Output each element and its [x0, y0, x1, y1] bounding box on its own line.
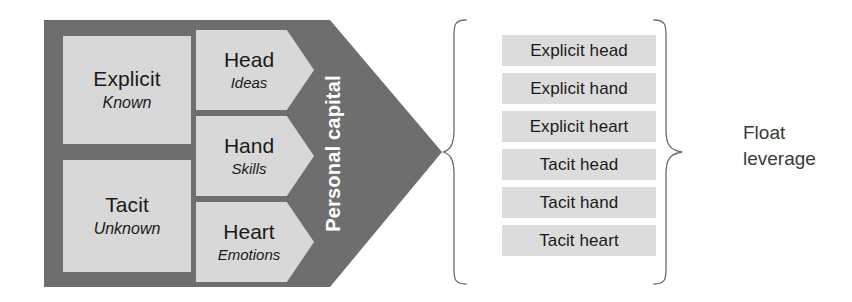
list-item: Explicit head	[502, 35, 656, 66]
personal-capital-arrow-block: Explicit Known Tacit Unknown Head Ideas …	[0, 0, 460, 302]
capability-chevron-title: Hand	[224, 135, 274, 157]
list-item: Tacit head	[502, 149, 656, 180]
capability-chevron-subtitle: Skills	[231, 161, 266, 177]
list-item: Explicit heart	[502, 111, 656, 142]
knowledge-box-explicit: Explicit Known	[63, 36, 191, 144]
list-item: Explicit hand	[502, 73, 656, 104]
float-leverage-line-1: Float	[743, 120, 843, 146]
capability-chevron-subtitle: Ideas	[231, 75, 268, 91]
diagram-canvas: Explicit Known Tacit Unknown Head Ideas …	[0, 0, 852, 302]
float-leverage-line-2: leverage	[743, 146, 843, 172]
knowledge-box-tacit: Tacit Unknown	[63, 160, 191, 272]
list-item: Tacit hand	[502, 187, 656, 218]
left-curly-brace-icon	[438, 0, 468, 302]
capability-chevron-title: Heart	[223, 221, 274, 243]
capability-chevron-title: Head	[224, 49, 274, 71]
knowledge-box-subtitle: Unknown	[94, 221, 161, 238]
capability-chevron-subtitle: Emotions	[218, 247, 281, 263]
right-curly-brace-icon	[652, 0, 692, 302]
list-item: Tacit heart	[502, 225, 656, 256]
float-leverage-label: Float leverage	[743, 120, 843, 172]
knowledge-box-title: Explicit	[93, 68, 160, 90]
combination-list: Explicit head Explicit hand Explicit hea…	[502, 35, 656, 256]
knowledge-box-title: Tacit	[105, 194, 149, 216]
knowledge-box-subtitle: Known	[103, 95, 152, 112]
